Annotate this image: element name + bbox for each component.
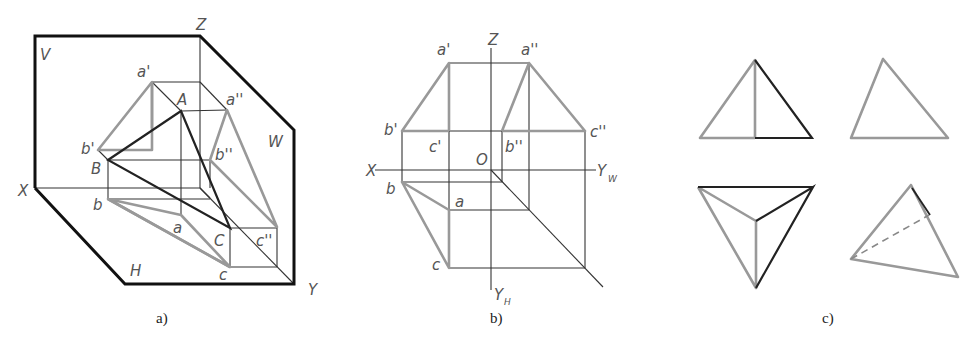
label-b-dprime: b'' <box>505 138 523 156</box>
diagram-canvas: V Z W X H Y a' A a'' b' B b'' b a C c'' … <box>0 0 971 356</box>
label-a: a <box>173 219 182 237</box>
label-X: X <box>365 162 377 180</box>
label-A: A <box>176 91 187 109</box>
figure-c-tetrahedron-views: c) <box>698 59 958 327</box>
figure-a-construction-lines <box>35 36 293 283</box>
label-H: H <box>130 262 141 280</box>
side-view <box>851 59 948 138</box>
label-X: X <box>17 182 29 200</box>
label-b-dprime: b'' <box>215 146 233 164</box>
front-projection-triangle <box>98 82 152 150</box>
isometric-view <box>851 185 958 277</box>
caption-b: b) <box>490 310 503 327</box>
label-b: b <box>93 196 103 214</box>
label-c-prime: c' <box>429 138 441 156</box>
figure-b-construction-lines <box>402 63 585 268</box>
label-b: b <box>386 180 396 198</box>
front-view-triangle <box>402 63 449 131</box>
label-c-dprime: c'' <box>590 123 607 141</box>
axis-45-diagonal <box>491 170 603 287</box>
label-a-prime: a' <box>137 63 150 81</box>
label-V: V <box>40 46 52 64</box>
figure-b-projections <box>402 63 585 268</box>
label-O: O <box>476 151 488 169</box>
label-c-dprime: c'' <box>256 232 273 250</box>
top-view-triangle <box>402 182 449 268</box>
label-a-prime: a' <box>437 41 450 59</box>
top-view <box>698 187 813 288</box>
front-view <box>700 60 812 138</box>
label-a-dprime: a'' <box>521 41 538 59</box>
label-Z: Z <box>195 16 207 34</box>
figure-b-three-view <box>375 48 603 290</box>
label-Yh-subscript: H <box>504 297 511 307</box>
label-Yw: Y <box>597 162 608 180</box>
label-a: a <box>455 193 464 211</box>
side-view-triangle <box>502 63 585 131</box>
figure-b-axes <box>375 48 603 290</box>
label-W: W <box>268 133 284 151</box>
caption-c: c) <box>822 310 834 327</box>
label-Yw-subscript: W <box>608 174 618 184</box>
label-c: c <box>432 256 441 274</box>
label-b-prime: b' <box>384 121 398 139</box>
label-b-prime: b' <box>81 140 95 158</box>
label-B: B <box>91 160 101 178</box>
label-Y: Y <box>308 281 319 299</box>
side-projection-triangle <box>210 110 277 227</box>
figure-a-labels: V Z W X H Y a' A a'' b' B b'' b a C c'' … <box>17 16 319 327</box>
label-a-dprime: a'' <box>226 91 243 109</box>
label-Z: Z <box>487 31 499 49</box>
label-c: c <box>219 266 228 284</box>
caption-a: a) <box>156 310 168 327</box>
label-C: C <box>214 232 225 250</box>
